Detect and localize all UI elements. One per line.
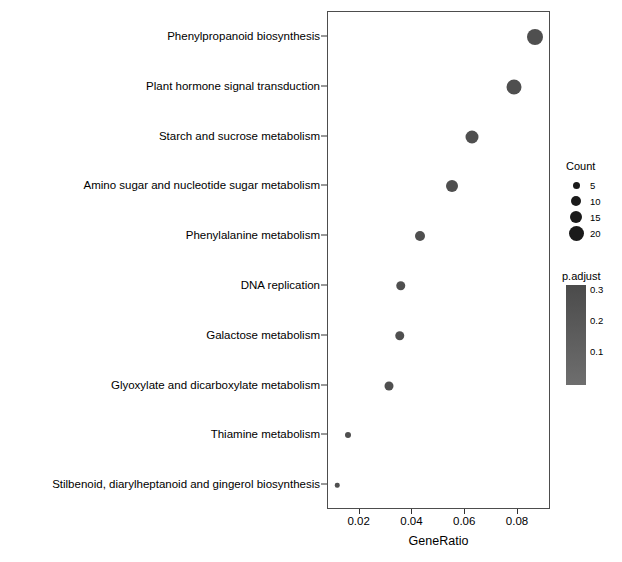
y-axis-tick	[321, 235, 327, 236]
x-axis-tick-label: 0.06	[453, 515, 475, 527]
y-axis-label: DNA replication	[241, 278, 320, 291]
count-legend-dot	[566, 226, 586, 241]
data-point	[396, 281, 406, 291]
padjust-colorbar-wrap: 0.30.20.1	[562, 285, 618, 385]
x-axis-tick	[359, 509, 360, 514]
y-axis-label: Glyoxylate and dicarboxylate metabolism	[111, 378, 320, 391]
data-point	[335, 483, 340, 488]
y-axis-label: Stilbenoid, diarylheptanoid and gingerol…	[52, 478, 320, 491]
y-axis-tick	[321, 185, 327, 186]
y-axis-label: Thiamine metabolism	[211, 428, 320, 441]
padjust-legend: p.adjust 0.30.20.1	[562, 270, 622, 385]
count-legend-label: 10	[590, 196, 601, 207]
count-legend-entry: 20	[566, 225, 622, 241]
x-axis-tick	[464, 509, 465, 514]
x-axis-tick-label: 0.02	[347, 515, 369, 527]
x-axis-tick-label: 0.04	[400, 515, 422, 527]
data-point	[507, 79, 522, 94]
y-axis-label: Galactose metabolism	[206, 328, 320, 341]
y-axis-tick	[321, 384, 327, 385]
padjust-legend-title: p.adjust	[562, 270, 622, 282]
y-axis-tick	[321, 484, 327, 485]
padjust-legend-tick-label: 0.2	[590, 315, 603, 326]
data-point	[345, 432, 351, 438]
count-legend: Count 5101520	[566, 160, 622, 241]
padjust-legend-tick-label: 0.1	[590, 346, 603, 357]
data-point	[384, 381, 393, 390]
y-axis-label: Phenylpropanoid biosynthesis	[167, 29, 320, 42]
count-legend-label: 5	[590, 180, 595, 191]
data-point	[415, 231, 425, 241]
plot-panel	[327, 11, 550, 509]
count-legend-title: Count	[566, 160, 622, 172]
x-axis-tick	[517, 509, 518, 514]
y-axis-label: Plant hormone signal transduction	[146, 79, 320, 92]
x-axis-title: GeneRatio	[327, 534, 550, 548]
y-axis-tick	[321, 135, 327, 136]
y-axis-tick	[321, 434, 327, 435]
y-axis-label: Amino sugar and nucleotide sugar metabol…	[83, 179, 320, 192]
x-axis-tick-label: 0.08	[506, 515, 528, 527]
data-point	[395, 331, 405, 341]
data-point	[446, 180, 458, 192]
count-legend-entry: 10	[566, 193, 622, 209]
count-legend-label: 15	[590, 212, 601, 223]
y-axis-label: Starch and sucrose metabolism	[159, 129, 320, 142]
count-legend-dot	[566, 196, 586, 206]
count-legend-dot	[566, 211, 586, 224]
y-axis-label: Phenylalanine metabolism	[186, 229, 320, 242]
y-axis-labels: Phenylpropanoid biosynthesisPlant hormon…	[0, 11, 320, 509]
count-legend-items: 5101520	[566, 177, 622, 241]
data-point	[527, 29, 543, 45]
x-axis-tick	[411, 509, 412, 514]
y-axis-tick	[321, 35, 327, 36]
padjust-legend-tick-label: 0.3	[590, 284, 603, 295]
padjust-colorbar	[566, 285, 586, 385]
y-axis-tick	[321, 334, 327, 335]
y-axis-tick	[321, 85, 327, 86]
count-legend-entry: 15	[566, 209, 622, 225]
y-axis-tick	[321, 284, 327, 285]
count-legend-entry: 5	[566, 177, 622, 193]
dotplot-figure: Phenylpropanoid biosynthesisPlant hormon…	[0, 0, 622, 562]
count-legend-dot	[566, 182, 586, 189]
data-point	[465, 130, 478, 143]
count-legend-label: 20	[590, 228, 601, 239]
